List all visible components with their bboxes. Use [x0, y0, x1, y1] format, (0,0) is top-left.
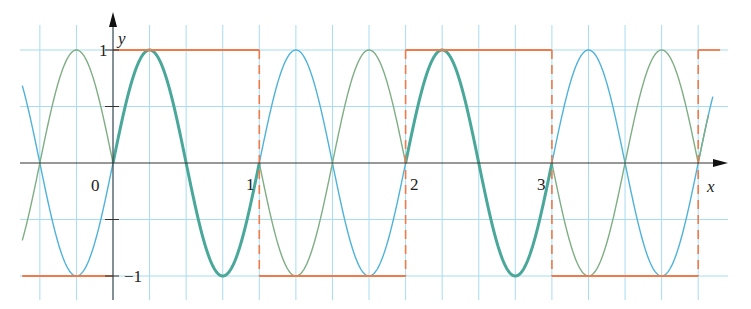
origin-label: 0 [91, 176, 100, 195]
x-tick-label-3: 3 [537, 175, 546, 194]
axes [20, 12, 728, 300]
x-axis-label: x [706, 177, 715, 196]
x-tick-label-1: 1 [246, 175, 255, 194]
y-tick-label-1: 1 [99, 41, 108, 60]
x-axis-arrow-icon [713, 159, 728, 167]
y-tick-label-neg1: −1 [124, 267, 142, 286]
y-axis-arrow-icon [109, 12, 117, 27]
chart: y x 0 1 −1 1 2 3 [0, 0, 751, 309]
x-tick-label-2: 2 [410, 175, 419, 194]
y-axis-label: y [116, 29, 126, 48]
